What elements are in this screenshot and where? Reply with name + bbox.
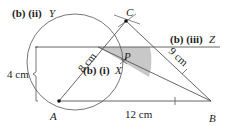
point-c xyxy=(124,19,128,23)
label-b: B xyxy=(209,112,216,124)
label-a: A xyxy=(49,110,57,122)
tick-bc xyxy=(182,69,187,74)
label-c: C xyxy=(126,6,134,18)
label-part-i-var: X xyxy=(114,64,123,76)
label-ab-length: 12 cm xyxy=(125,108,153,120)
locus-circle-y xyxy=(27,14,123,110)
geometry-diagram: (b) (ii) Y (b) (iii) Z (b) (i) X P C A B… xyxy=(0,0,227,126)
label-height: 4 cm xyxy=(7,68,29,80)
label-part-ii-var: Y xyxy=(49,7,57,19)
label-p: P xyxy=(123,50,131,62)
height-brace xyxy=(33,47,38,101)
label-part-iii-var: Z xyxy=(209,33,216,45)
point-a xyxy=(57,99,61,103)
label-part-ii: (b) (ii) xyxy=(12,7,42,20)
label-bc-length: 9 cm xyxy=(167,45,191,69)
